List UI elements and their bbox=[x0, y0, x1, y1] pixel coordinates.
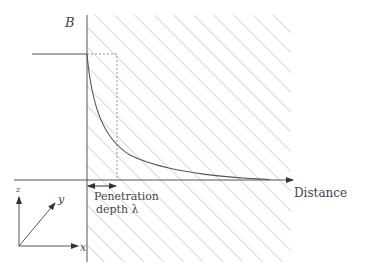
coordinate-axes: z y x bbox=[15, 185, 87, 254]
penetration-depth-diagram: B Distance Penetration depth λ z y x bbox=[0, 0, 365, 274]
superconductor-region bbox=[87, 15, 291, 262]
distance-axis-label: Distance bbox=[294, 186, 347, 200]
x-label: x bbox=[80, 241, 87, 254]
b-axis-label: B bbox=[64, 15, 75, 30]
z-label: z bbox=[15, 185, 21, 194]
penetration-label-line2: depth λ bbox=[96, 203, 139, 216]
y-label: y bbox=[57, 193, 65, 206]
y-axis-arrow bbox=[19, 203, 55, 246]
penetration-label-line1: Penetration bbox=[94, 190, 159, 203]
